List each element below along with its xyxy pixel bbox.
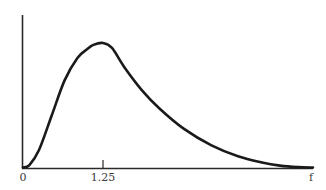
x-axis-label-f: f xyxy=(309,171,313,184)
x-tick-label-origin: 0 xyxy=(20,171,27,184)
density-curve xyxy=(23,43,313,168)
x-tick-label-peak: 1.25 xyxy=(91,171,116,184)
distribution-chart xyxy=(0,0,326,190)
